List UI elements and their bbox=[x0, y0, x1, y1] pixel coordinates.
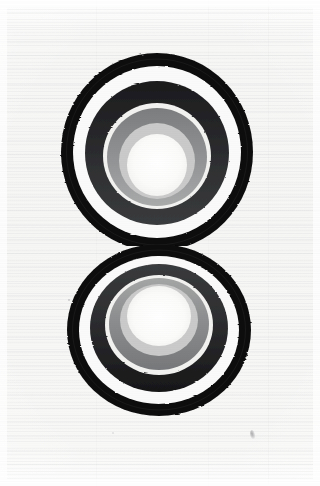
artwork-canvas: Double Ring Form ink and wash on ruled p… bbox=[0, 0, 320, 486]
paper-margin-overlay bbox=[0, 0, 320, 486]
